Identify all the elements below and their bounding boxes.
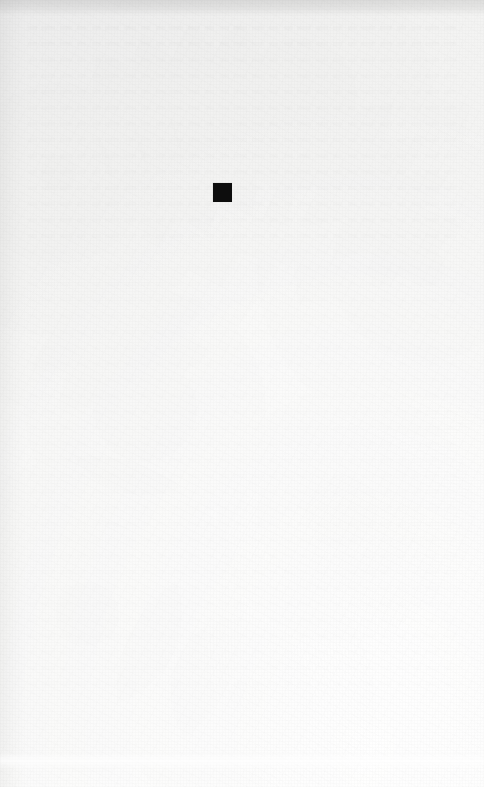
page-fold-highlight	[0, 752, 484, 770]
top-edge-scan-shadow	[0, 0, 484, 16]
black-square-mark	[213, 183, 232, 202]
left-edge-gutter-shadow	[0, 0, 26, 787]
scanned-page	[0, 0, 484, 787]
reverse-side-bleed-through	[28, 26, 462, 686]
